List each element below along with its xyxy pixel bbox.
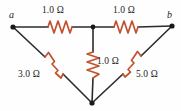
- resistor-symbol-top-right: [114, 21, 138, 33]
- junction-dot-top-center: [91, 25, 96, 30]
- resistor-label-right-diagonal: 5.0 Ω: [136, 70, 158, 80]
- terminal-label-a: a: [9, 10, 14, 20]
- resistor-label-center-vertical: 1.0 Ω: [97, 57, 119, 67]
- wire-top-right-resistor-to-b: [138, 26, 172, 27]
- terminal-dot-a[interactable]: [10, 24, 15, 29]
- wire-a-to-left-diagonal-resistor: [13, 27, 45, 57]
- resistor-symbol-top-left: [48, 21, 72, 33]
- wire-left-diagonal-resistor-to-bottom: [63, 74, 92, 103]
- resistor-label-top-left: 1.0 Ω: [42, 6, 64, 16]
- terminal-dot-b[interactable]: [169, 23, 174, 28]
- wire-vertical-resistor-to-bottom: [92, 78, 93, 103]
- junction-dot-bottom-vertex: [89, 100, 94, 105]
- wire-right-diagonal-resistor-to-bottom: [92, 74, 123, 103]
- terminal-label-b: b: [167, 10, 172, 20]
- resistor-label-top-right: 1.0 Ω: [113, 6, 135, 16]
- circuit-schematic-canvas: [0, 0, 181, 111]
- resistor-label-left-diagonal: 3.0 Ω: [18, 70, 40, 80]
- circuit-diagram: a b 1.0 Ω 1.0 Ω 1.0 Ω 3.0 Ω 5.0 Ω: [0, 0, 181, 111]
- resistor-symbol-left-diagonal: [45, 53, 63, 79]
- wire-b-to-right-diagonal-resistor: [141, 26, 172, 56]
